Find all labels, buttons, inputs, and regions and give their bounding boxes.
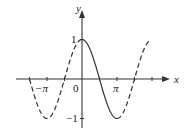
x-axis-arrow-icon — [162, 76, 170, 82]
x-tick-label-pi: π — [113, 82, 119, 94]
x-axis-label: x — [173, 73, 179, 85]
y-axis-label: y — [75, 2, 81, 14]
x-tick-label-neg-pi: −π — [35, 82, 48, 94]
origin-label: 0 — [73, 82, 79, 94]
y-tick-label-1: 1 — [71, 33, 77, 45]
cosine-graph: y x 1 −1 0 −π π — [0, 0, 191, 133]
y-tick-label-neg1: −1 — [66, 112, 78, 124]
